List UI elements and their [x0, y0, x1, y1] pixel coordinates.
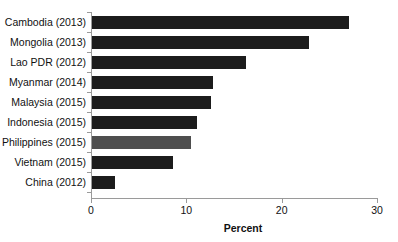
x-axis-line — [91, 198, 378, 199]
y-tick-mark — [87, 92, 91, 93]
bar — [92, 136, 191, 149]
bar-row: Philippines (2015) — [0, 132, 398, 152]
bar — [92, 176, 115, 189]
bar — [92, 16, 349, 29]
bar-chart-figure: Cambodia (2013)Mongolia (2013)Lao PDR (2… — [0, 0, 398, 242]
category-label: China (2012) — [0, 172, 86, 192]
x-tick-mark — [377, 199, 378, 203]
y-tick-mark — [87, 112, 91, 113]
bar — [92, 116, 197, 129]
y-tick-mark — [87, 52, 91, 53]
bar — [92, 96, 211, 109]
bar-row: Vietnam (2015) — [0, 152, 398, 172]
y-tick-mark — [87, 152, 91, 153]
bar — [92, 36, 309, 49]
x-tick-label: 30 — [362, 204, 392, 216]
bar-row: Cambodia (2013) — [0, 12, 398, 32]
bar — [92, 56, 246, 69]
bar-row: Mongolia (2013) — [0, 32, 398, 52]
x-axis-title-text: Percent — [136, 222, 263, 234]
bar — [92, 76, 213, 89]
x-axis-title: Percent — [0, 222, 398, 234]
x-tick-mark — [282, 199, 283, 203]
y-tick-mark — [87, 132, 91, 133]
category-label: Malaysia (2015) — [0, 92, 86, 112]
x-tick-label: 0 — [76, 204, 106, 216]
bar-row: Malaysia (2015) — [0, 92, 398, 112]
category-label: Philippines (2015) — [0, 132, 86, 152]
category-label: Lao PDR (2012) — [0, 52, 86, 72]
x-tick-label: 10 — [171, 204, 201, 216]
bar-row: Myanmar (2014) — [0, 72, 398, 92]
y-tick-mark — [87, 192, 91, 193]
x-tick-mark — [186, 199, 187, 203]
x-tick-label: 20 — [267, 204, 297, 216]
category-label: Mongolia (2013) — [0, 32, 86, 52]
category-label: Indonesia (2015) — [0, 112, 86, 132]
category-label: Vietnam (2015) — [0, 152, 86, 172]
bar — [92, 156, 173, 169]
y-tick-mark — [87, 172, 91, 173]
y-tick-mark — [87, 32, 91, 33]
bar-row: Indonesia (2015) — [0, 112, 398, 132]
category-label: Myanmar (2014) — [0, 72, 86, 92]
bar-row: Lao PDR (2012) — [0, 52, 398, 72]
bar-row: China (2012) — [0, 172, 398, 192]
x-tick-mark — [91, 199, 92, 203]
y-tick-mark — [87, 72, 91, 73]
category-label: Cambodia (2013) — [0, 12, 86, 32]
y-tick-mark — [87, 12, 91, 13]
